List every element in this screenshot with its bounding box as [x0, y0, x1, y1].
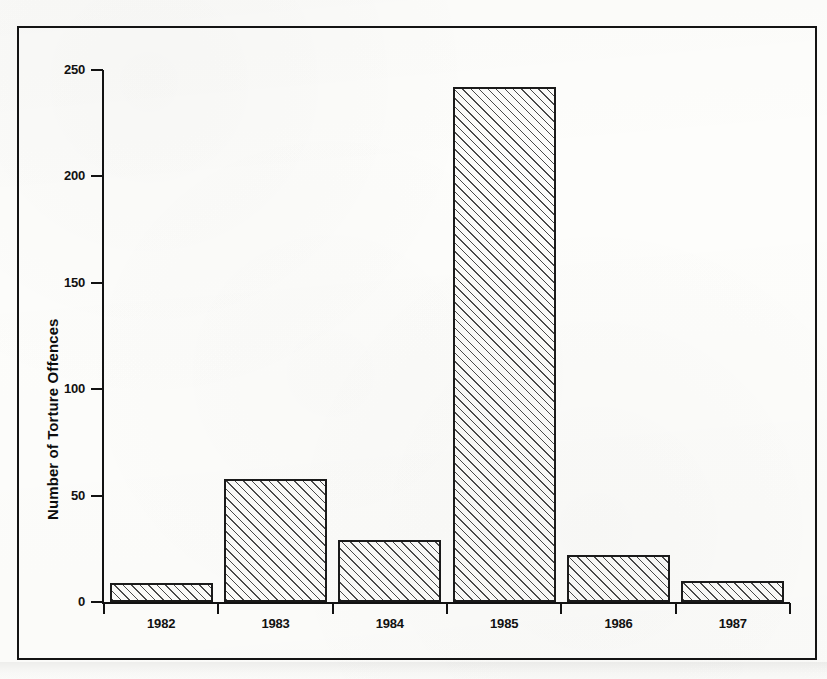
x-axis-tick-mark [332, 603, 334, 614]
y-axis-tick-mark [91, 282, 103, 284]
chart-page: 250200150100500 198219831984198519861987… [0, 0, 827, 679]
y-axis-tick-label: 250 [39, 63, 85, 76]
x-axis-label-1982: 1982 [104, 617, 218, 631]
bar-1986 [567, 555, 670, 602]
bar-1983 [224, 479, 327, 602]
bar-1985 [453, 87, 556, 602]
y-axis-title: Number of Torture Offences [44, 220, 61, 520]
x-axis-label-1983: 1983 [218, 617, 332, 631]
x-axis-tick-mark [675, 603, 677, 614]
y-axis-tick-label: 0 [39, 595, 85, 608]
x-axis-label-1984: 1984 [333, 617, 447, 631]
plot-area: 250200150100500 198219831984198519861987… [0, 0, 827, 679]
y-axis-tick-label: 200 [39, 169, 85, 182]
x-axis-tick-mark [789, 603, 791, 614]
y-axis-tick-mark [91, 69, 103, 71]
bar-1984 [338, 540, 441, 602]
x-axis-tick-mark [560, 603, 562, 614]
x-axis-tick-mark [217, 603, 219, 614]
x-axis-tick-mark [103, 603, 105, 614]
x-axis-tick-mark [446, 603, 448, 614]
y-axis-tick-mark [91, 495, 103, 497]
y-axis-line [102, 70, 104, 604]
x-axis-label-1987: 1987 [676, 617, 790, 631]
y-axis-tick-mark [91, 601, 103, 603]
y-axis-tick-mark [91, 388, 103, 390]
bar-1987 [681, 581, 784, 602]
x-axis-label-1985: 1985 [447, 617, 561, 631]
bar-1982 [110, 583, 213, 602]
x-axis-label-1986: 1986 [561, 617, 675, 631]
y-axis-tick-mark [91, 175, 103, 177]
